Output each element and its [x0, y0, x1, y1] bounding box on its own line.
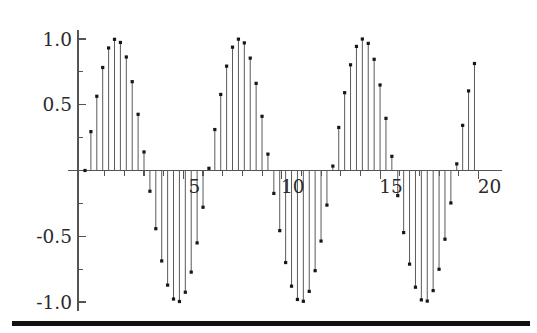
stem-marker: [266, 153, 269, 156]
stem-marker: [432, 289, 435, 292]
stem-marker: [402, 231, 405, 234]
stem-marker: [449, 201, 452, 204]
stem-marker: [207, 167, 210, 170]
stem-marker: [455, 162, 458, 165]
stem-marker: [119, 41, 122, 44]
stem-marker: [249, 57, 252, 60]
stem-marker: [296, 298, 299, 301]
stem-marker: [243, 41, 246, 44]
stem-marker: [319, 239, 322, 242]
stem-marker: [278, 229, 281, 232]
stem-marker: [378, 83, 381, 86]
stem-marker: [349, 63, 352, 66]
stem-marker: [467, 89, 470, 92]
stem-marker: [420, 298, 423, 301]
stem-marker: [131, 80, 134, 83]
stem-marker: [95, 95, 98, 98]
x-tick-label: 5: [188, 176, 200, 197]
stem-marker: [178, 300, 181, 303]
stem-plot-chart: 1.00.5-0.5-1.05101520: [0, 0, 537, 333]
stem-marker: [473, 62, 476, 65]
stem-marker: [184, 291, 187, 294]
stem-marker: [367, 42, 370, 45]
y-tick-label: 0.5: [43, 94, 72, 115]
stem-marker: [160, 259, 163, 262]
stem-marker: [414, 286, 417, 289]
x-tick-label: 15: [379, 176, 403, 197]
stem-marker: [142, 150, 145, 153]
y-tick-label: -0.5: [36, 226, 72, 247]
y-tick-label: -1.0: [36, 292, 72, 313]
stem-marker: [331, 164, 334, 167]
stem-marker: [373, 58, 376, 61]
stem-marker: [426, 299, 429, 302]
stem-marker: [101, 66, 104, 69]
stem-marker: [408, 263, 411, 266]
stem-marker: [290, 285, 293, 288]
stem-marker: [166, 284, 169, 287]
bottom-rule-divider: [12, 321, 530, 326]
stem-marker: [355, 45, 358, 48]
stem-marker: [89, 130, 92, 133]
stem-marker: [461, 124, 464, 127]
stem-marker: [113, 38, 116, 41]
stem-marker: [107, 46, 110, 49]
x-tick-label: 10: [281, 176, 305, 197]
stem-marker: [148, 190, 151, 193]
stem-marker: [437, 268, 440, 271]
stem-marker: [213, 128, 216, 131]
stem-marker: [196, 241, 199, 244]
stem-marker: [390, 155, 393, 158]
stem-marker: [219, 93, 222, 96]
stem-marker: [225, 65, 228, 68]
stem-marker: [361, 37, 364, 40]
stem-marker: [172, 297, 175, 300]
x-tick-label: 20: [478, 176, 502, 197]
stem-marker: [125, 55, 128, 58]
stem-marker: [255, 82, 258, 85]
stem-marker: [384, 117, 387, 120]
figure-container: 1.00.5-0.5-1.05101520: [0, 0, 537, 333]
stem-marker: [308, 290, 311, 293]
stem-marker: [272, 192, 275, 195]
stem-marker: [337, 126, 340, 129]
stem-marker: [260, 115, 263, 118]
stem-marker: [201, 206, 204, 209]
stem-marker: [237, 38, 240, 41]
stem-marker: [83, 169, 86, 172]
stem-marker: [443, 238, 446, 241]
stem-marker: [154, 227, 157, 230]
stem-marker: [190, 271, 193, 274]
y-tick-label: 1.0: [43, 29, 72, 50]
stem-marker: [137, 113, 140, 116]
axis-group: [68, 30, 502, 311]
stem-marker: [343, 91, 346, 94]
stem-marker: [325, 204, 328, 207]
stem-marker: [231, 46, 234, 49]
stem-marker: [314, 269, 317, 272]
stem-marker: [284, 261, 287, 264]
stem-marker: [302, 300, 305, 303]
